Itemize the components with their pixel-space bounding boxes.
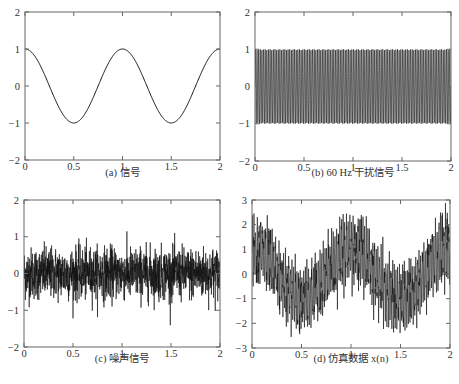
- y-tick-label: −2: [236, 318, 247, 329]
- figure-canvas: 00.511.52−2−101200.511.52−2−101200.511.5…: [0, 0, 459, 384]
- y-tick-label: −1: [236, 293, 247, 304]
- caption-b: (b) 60 Hz 干扰信号: [255, 164, 451, 179]
- caption-d: (d) 仿真数据 x(n): [252, 350, 450, 365]
- y-tick-label: 0: [245, 81, 250, 92]
- caption-a: (a) 信号: [25, 164, 220, 179]
- series-line-d: [252, 203, 450, 337]
- y-tick-label: 1: [15, 44, 20, 55]
- chart-panel-c: 00.511.52−2−1012: [8, 195, 223, 360]
- y-tick-label: −2: [239, 156, 250, 167]
- y-tick-label: 2: [245, 7, 250, 18]
- chart-panel-a: 00.511.52−2−1012: [9, 7, 223, 173]
- series-line-a: [25, 49, 220, 123]
- y-tick-label: 2: [242, 219, 247, 230]
- y-tick-label: −1: [8, 305, 19, 316]
- y-tick-label: 3: [242, 195, 247, 206]
- y-tick-label: −1: [9, 118, 20, 129]
- y-tick-label: 1: [245, 44, 250, 55]
- y-tick-label: 1: [242, 244, 247, 255]
- y-tick-label: −3: [236, 343, 247, 354]
- y-tick-label: 2: [14, 195, 19, 206]
- y-tick-label: −1: [239, 118, 250, 129]
- y-tick-label: 0: [242, 269, 247, 280]
- plot-frame-a: [25, 12, 220, 160]
- y-tick-label: −2: [9, 155, 20, 166]
- chart-panel-b: 00.511.52−2−1012: [239, 7, 454, 174]
- caption-c: (c) 噪声信号: [24, 350, 220, 365]
- y-tick-label: 0: [14, 268, 19, 279]
- y-tick-label: −2: [8, 342, 19, 353]
- y-tick-label: 0: [15, 81, 20, 92]
- series-line-b: [255, 49, 451, 123]
- series-line-c: [24, 231, 220, 325]
- y-tick-label: 1: [14, 231, 19, 242]
- y-tick-label: 2: [15, 7, 20, 18]
- chart-panel-d: 00.511.52−3−2−10123: [236, 195, 453, 361]
